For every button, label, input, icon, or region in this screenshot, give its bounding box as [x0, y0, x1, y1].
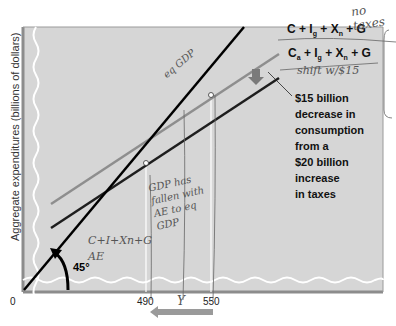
- tax-effect-annotation: $15 billion decrease in consumption from…: [295, 90, 385, 202]
- note-line: increase: [295, 170, 385, 186]
- handwritten-shift: shift w/$15: [297, 64, 359, 77]
- equilibrium-point-490: [144, 161, 149, 166]
- note-line: $20 billion: [295, 154, 385, 170]
- legend-post-tax: Ca + Ig + Xn + G: [288, 46, 371, 61]
- equilibrium-point-550: [209, 93, 214, 98]
- note-line: decrease in: [295, 106, 385, 122]
- x-tick-490: 490: [137, 296, 154, 307]
- x-tick-550: 550: [203, 296, 220, 307]
- handwritten-ae-note: C+I+Xn+G AE: [88, 233, 148, 265]
- handwritten-no-taxes: no taxes: [350, 0, 396, 33]
- note-line: consumption: [295, 122, 385, 138]
- x-tick-y-handwritten: Y: [177, 294, 185, 308]
- y-axis-label: Aggregate expenditures (billions of doll…: [9, 71, 21, 241]
- note-line: $15 billion: [295, 90, 385, 106]
- note-line: from a: [295, 138, 385, 154]
- x-tick-0: 0: [10, 296, 16, 307]
- note-line: in taxes: [295, 186, 385, 202]
- handwritten-bracket: [384, 30, 392, 118]
